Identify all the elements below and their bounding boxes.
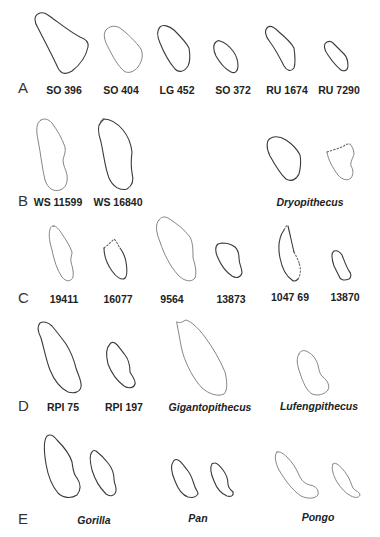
outline-ru-1674 bbox=[266, 26, 296, 70]
specimen-label: Pongo bbox=[302, 511, 335, 523]
outline-drawings bbox=[0, 0, 380, 537]
specimen-label: LG 452 bbox=[159, 84, 194, 96]
outline-1047-69 bbox=[279, 230, 298, 281]
outline-lg-452 bbox=[158, 26, 190, 72]
outline-dryopithecus-2 bbox=[327, 144, 354, 180]
specimen-label: 1047 69 bbox=[271, 291, 309, 303]
outline-ws-16840 bbox=[98, 119, 132, 190]
outline-gorilla-2 bbox=[90, 450, 116, 495]
outline-ru-7290 bbox=[324, 41, 348, 70]
outline-1047-69-dashed bbox=[284, 226, 300, 279]
specimen-label: 13873 bbox=[216, 293, 245, 305]
specimen-label: 9564 bbox=[160, 293, 183, 305]
outline-ws-11599 bbox=[37, 119, 67, 191]
outline-gorilla-1 bbox=[44, 435, 80, 497]
outline-so-404 bbox=[104, 26, 142, 72]
specimen-label: WS 11599 bbox=[34, 196, 82, 208]
outline-9564 bbox=[156, 217, 195, 281]
specimen-outline-figure: A SO 396 SO 404 LG 452 SO 372 RU 1674 RU… bbox=[0, 0, 380, 537]
outline-rpi-197 bbox=[107, 342, 135, 387]
outline-gigantopithecus bbox=[177, 320, 227, 395]
specimen-label: Gigantopithecus bbox=[169, 401, 252, 413]
outline-16077 bbox=[104, 248, 127, 279]
specimen-label: Lufengpithecus bbox=[280, 400, 358, 412]
outline-13870 bbox=[332, 251, 351, 280]
outline-so-396 bbox=[35, 13, 88, 74]
outline-so-372 bbox=[214, 41, 238, 73]
specimen-label: Gorilla bbox=[77, 514, 110, 526]
outline-pongo-2 bbox=[332, 463, 360, 497]
outline-dryopithecus-1 bbox=[267, 137, 301, 180]
outline-pan-1 bbox=[172, 460, 198, 498]
outline-16077-dashed bbox=[104, 239, 120, 248]
row-letter-a: A bbox=[18, 79, 28, 96]
row-letter-e: E bbox=[18, 510, 28, 527]
outline-1047-69-right bbox=[288, 226, 294, 252]
outline-pongo-1 bbox=[275, 452, 318, 498]
specimen-label: 19411 bbox=[50, 293, 79, 305]
outline-rpi-75 bbox=[38, 322, 81, 393]
specimen-label: SO 372 bbox=[215, 84, 251, 96]
row-letter-d: D bbox=[18, 397, 29, 414]
specimen-label: RU 7290 bbox=[318, 84, 359, 96]
specimen-label: Dryopithecus bbox=[276, 196, 343, 208]
specimen-label: WS 16840 bbox=[93, 196, 142, 208]
outline-19411 bbox=[49, 226, 73, 281]
specimen-label: SO 396 bbox=[46, 84, 82, 96]
outline-13873 bbox=[216, 243, 242, 277]
outline-dryopithecus-2-dashed bbox=[327, 144, 350, 152]
outline-19411-dashed bbox=[51, 226, 54, 227]
outline-lufengpithecus bbox=[297, 351, 329, 395]
row-letter-c: C bbox=[18, 289, 29, 306]
specimen-label: RPI 197 bbox=[105, 401, 143, 413]
specimen-label: 16077 bbox=[103, 293, 132, 305]
outline-pan-2 bbox=[211, 463, 233, 496]
specimen-label: RU 1674 bbox=[266, 84, 307, 96]
specimen-label: 13870 bbox=[330, 291, 359, 303]
row-letter-b: B bbox=[18, 192, 28, 209]
specimen-label: RPI 75 bbox=[47, 401, 79, 413]
specimen-label: SO 404 bbox=[103, 84, 139, 96]
specimen-label: Pan bbox=[188, 512, 207, 524]
